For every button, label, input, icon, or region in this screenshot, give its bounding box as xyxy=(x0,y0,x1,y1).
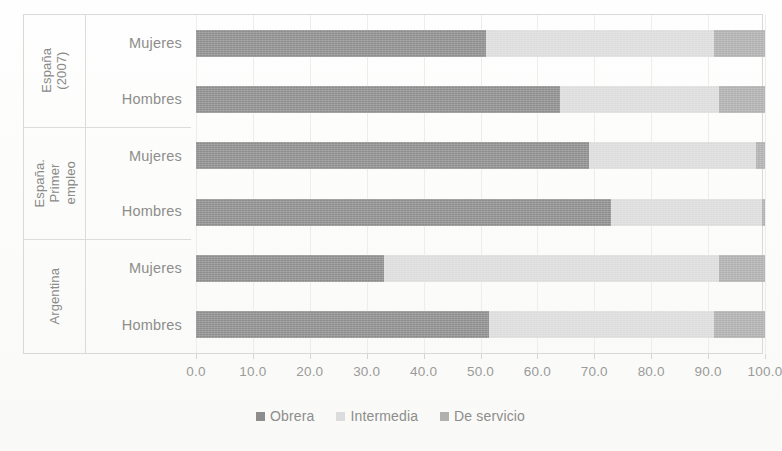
bar-segment-intermedia xyxy=(489,311,714,338)
legend-label: Obrera xyxy=(270,408,314,424)
legend-swatch-icon xyxy=(336,412,345,421)
bar-segment-obrera xyxy=(196,86,560,113)
category-group-label: Argentina xyxy=(24,240,86,353)
category-group: España. Primer empleoMujeresHombres xyxy=(24,128,191,241)
x-tick-label: 80.0 xyxy=(638,364,665,379)
legend-label: Intermedia xyxy=(350,408,418,424)
x-tick-label: 70.0 xyxy=(581,364,608,379)
category-group-label: España. Primer empleo xyxy=(24,128,86,240)
x-tickmark xyxy=(310,354,311,359)
series-label: Hombres xyxy=(86,71,191,127)
bar-row xyxy=(196,311,765,338)
x-tickmark xyxy=(196,354,197,359)
category-group: ArgentinaMujeresHombres xyxy=(24,240,191,353)
x-tick-label: 90.0 xyxy=(695,364,722,379)
x-tickmark xyxy=(424,354,425,359)
bar-row xyxy=(196,30,765,57)
bar-segment-intermedia xyxy=(589,142,757,169)
series-label: Hombres xyxy=(86,183,191,239)
stacked-bar-plot-area xyxy=(196,15,765,353)
x-tickmark xyxy=(594,354,595,359)
bar-segment-servicio xyxy=(714,311,765,338)
x-tickmark xyxy=(253,354,254,359)
bar-segment-servicio xyxy=(756,142,765,169)
category-group: España (2007)MujeresHombres xyxy=(24,15,191,128)
bar-segment-servicio xyxy=(714,30,765,57)
x-tick-label: 20.0 xyxy=(296,364,323,379)
x-tick-label: 100.0 xyxy=(748,364,782,379)
x-tick-label: 40.0 xyxy=(410,364,437,379)
legend-label: De servicio xyxy=(454,408,525,424)
series-label-list: MujeresHombres xyxy=(86,15,191,127)
gridline xyxy=(310,15,311,353)
series-label: Mujeres xyxy=(86,128,191,184)
gridline xyxy=(367,15,368,353)
bar-row xyxy=(196,86,765,113)
bar-segment-obrera xyxy=(196,30,486,57)
gridline xyxy=(651,15,652,353)
bar-segment-servicio xyxy=(762,199,765,226)
bar-segment-intermedia xyxy=(611,199,762,226)
gridline xyxy=(594,15,595,353)
x-tickmark xyxy=(537,354,538,359)
series-label: Mujeres xyxy=(86,240,191,296)
gridline xyxy=(481,15,482,353)
legend-item[interactable]: Intermedia xyxy=(336,408,418,424)
legend-swatch-icon xyxy=(440,412,449,421)
bar-segment-intermedia xyxy=(486,30,714,57)
gridline xyxy=(424,15,425,353)
x-axis-tickmarks xyxy=(196,354,765,360)
bar-row xyxy=(196,255,765,282)
legend-item[interactable]: Obrera xyxy=(256,408,314,424)
category-group-label-text: España (2007) xyxy=(39,48,70,93)
series-label-list: MujeresHombres xyxy=(86,128,191,240)
x-tick-label: 10.0 xyxy=(239,364,266,379)
x-tick-label: 50.0 xyxy=(467,364,494,379)
bar-row xyxy=(196,142,765,169)
bar-row xyxy=(196,199,765,226)
x-tick-label: 30.0 xyxy=(353,364,380,379)
gridline xyxy=(765,15,766,353)
gridline xyxy=(253,15,254,353)
gridline xyxy=(196,15,197,353)
gridline xyxy=(708,15,709,353)
bar-segment-intermedia xyxy=(384,255,720,282)
legend-item[interactable]: De servicio xyxy=(440,408,525,424)
x-tickmark xyxy=(765,354,766,359)
x-tick-label: 60.0 xyxy=(524,364,551,379)
bar-segment-obrera xyxy=(196,199,611,226)
x-axis-tick-labels: 0.010.020.030.040.050.060.070.080.090.01… xyxy=(196,364,765,382)
x-tickmark xyxy=(651,354,652,359)
x-tick-label: 0.0 xyxy=(186,364,205,379)
x-tickmark xyxy=(481,354,482,359)
series-label: Hombres xyxy=(86,297,191,353)
chart-legend: ObreraIntermediaDe servicio xyxy=(0,408,781,424)
category-group-label-text: Argentina xyxy=(47,268,62,325)
x-tickmark xyxy=(367,354,368,359)
series-label: Mujeres xyxy=(86,15,191,71)
category-axis: España (2007)MujeresHombresEspaña. Prime… xyxy=(24,15,191,353)
bar-segment-obrera xyxy=(196,311,489,338)
bar-segment-obrera xyxy=(196,255,384,282)
legend-swatch-icon xyxy=(256,412,265,421)
gridline xyxy=(537,15,538,353)
x-tickmark xyxy=(708,354,709,359)
bar-segment-servicio xyxy=(719,255,765,282)
category-group-label: España (2007) xyxy=(24,15,86,127)
bar-segment-intermedia xyxy=(560,86,719,113)
category-group-label-text: España. Primer empleo xyxy=(32,159,78,207)
bar-segment-obrera xyxy=(196,142,589,169)
series-label-list: MujeresHombres xyxy=(86,240,191,353)
bar-segment-servicio xyxy=(719,86,765,113)
